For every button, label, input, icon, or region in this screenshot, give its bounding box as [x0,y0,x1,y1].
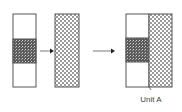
combined-unit [126,14,172,90]
source-block [13,14,36,87]
unit-label: Unit A [131,95,171,104]
arrow-icon [93,49,115,54]
arrow-icon [40,49,54,54]
checkered-block [55,14,79,87]
